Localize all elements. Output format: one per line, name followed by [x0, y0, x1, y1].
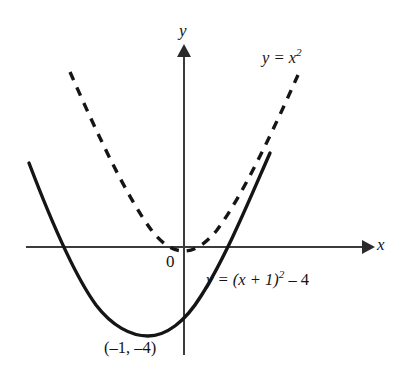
y-axis-arrowhead — [177, 44, 191, 57]
equation-dashed-lead: y = x — [262, 48, 296, 67]
curve-y-equals-x-plus-1-squared-minus-4 — [29, 153, 270, 336]
y-axis-label: y — [179, 22, 187, 39]
equation-solid-tail: – 4 — [284, 270, 309, 289]
x-axis-label: x — [377, 236, 385, 253]
origin-label: 0 — [166, 253, 175, 270]
math-graph-figure: y x 0 y = x2 y = (x + 1)2 – 4 (–1, –4) — [0, 0, 401, 377]
graph-canvas — [0, 0, 401, 377]
equation-solid-lead: y = (x + 1) — [206, 270, 279, 289]
vertex-point-label: (–1, –4) — [104, 340, 156, 357]
equation-dashed-exponent: 2 — [296, 46, 302, 58]
equation-label-solid-curve: y = (x + 1)2 – 4 — [206, 269, 309, 288]
x-axis-arrowhead — [362, 240, 375, 254]
equation-label-dashed-curve: y = x2 — [262, 47, 302, 66]
